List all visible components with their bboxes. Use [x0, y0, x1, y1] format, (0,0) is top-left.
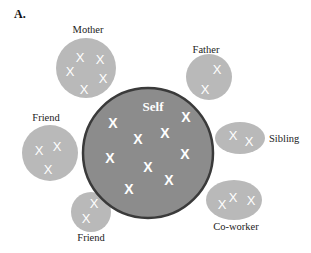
x-mark: X: [124, 181, 134, 197]
x-mark: X: [133, 131, 143, 147]
x-mark: X: [80, 82, 89, 97]
x-mark: X: [160, 125, 170, 141]
mother-circle: X X X X X: [56, 38, 116, 98]
x-mark: X: [44, 162, 53, 177]
x-mark: X: [82, 211, 91, 226]
self-concept-diagram: X X X X X X X X X X X X X X X X X Self: [0, 0, 311, 253]
x-mark: X: [218, 197, 227, 212]
x-mark: X: [99, 71, 108, 86]
sibling-ellipse: X X: [215, 122, 265, 154]
x-mark: X: [181, 109, 191, 125]
x-mark: X: [164, 172, 174, 188]
x-mark: X: [76, 50, 85, 65]
x-mark: X: [53, 139, 62, 154]
self-label: Self: [143, 99, 165, 114]
father-label: Father: [193, 44, 220, 55]
x-mark: X: [35, 143, 44, 158]
x-mark: X: [105, 150, 115, 166]
friend-left-circle: X X X: [22, 125, 78, 181]
x-mark: X: [180, 146, 190, 162]
x-mark: X: [247, 193, 256, 208]
x-mark: X: [201, 82, 210, 97]
coworker-ellipse: X X X: [206, 180, 262, 220]
friend-left-label: Friend: [32, 112, 59, 123]
sibling-label: Sibling: [269, 133, 299, 144]
x-mark: X: [96, 52, 105, 67]
father-circle: X X: [186, 54, 232, 100]
x-mark: X: [245, 134, 254, 149]
x-mark: X: [213, 62, 222, 77]
friend-bottom-label: Friend: [77, 232, 104, 243]
x-mark: X: [229, 190, 238, 205]
x-mark: X: [90, 196, 99, 211]
coworker-label: Co-worker: [213, 221, 259, 232]
x-mark: X: [143, 159, 153, 175]
x-mark: X: [229, 128, 238, 143]
self-circle: Self X X X X X X X X X: [83, 88, 213, 218]
x-mark: X: [108, 115, 118, 131]
mother-label: Mother: [73, 24, 104, 35]
x-mark: X: [66, 64, 75, 79]
